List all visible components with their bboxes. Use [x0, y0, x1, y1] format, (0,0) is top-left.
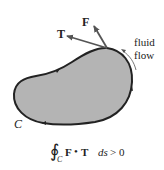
- closed-curve-c: [14, 48, 132, 124]
- line-integral-formula: ∮ C F • T ds > 0: [50, 140, 150, 166]
- flow-label-line1: fluid: [134, 37, 155, 48]
- integral-subscript: C: [57, 156, 62, 164]
- integrand-t: T: [81, 147, 88, 158]
- inequality: > 0: [110, 147, 124, 158]
- integrand-f: F: [65, 147, 72, 158]
- flow-label-line2: flow: [134, 50, 154, 61]
- curve-label-c: C: [14, 118, 22, 130]
- vector-label-f: F: [82, 16, 89, 28]
- differential-ds: ds: [98, 147, 108, 158]
- vector-label-t: T: [57, 28, 65, 40]
- dot-product: •: [74, 146, 78, 157]
